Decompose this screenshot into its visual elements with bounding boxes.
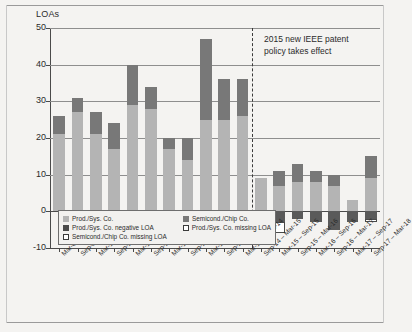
bar-segment-prod (163, 149, 174, 211)
bar-segment-semi (273, 171, 284, 186)
bar-segment-prod (108, 149, 119, 211)
frame-border-bottom (6, 322, 384, 323)
frame-border-left (6, 5, 7, 323)
legend-swatch-prod-icon (63, 216, 69, 222)
bar-segment-prod (292, 182, 303, 211)
legend-label-prod-negative: Prod./Sys. Co. negative LOA (72, 223, 154, 232)
legend-swatch-semi-missing-icon (63, 234, 69, 240)
bar-segment-prod (127, 105, 138, 211)
chart-legend: Prod./Sys. Co. Semicond./Chip Co. Prod./… (58, 210, 276, 245)
legend-label-semi: Semicond./Chip Co. (192, 214, 249, 223)
y-tick-label: 40 (20, 59, 46, 69)
y-tick-label: 10 (20, 169, 46, 179)
bar-segment-semi (108, 123, 119, 149)
bar-segment-prod (53, 134, 64, 211)
bar-segment-prod (182, 160, 193, 211)
bar-segment-semi (163, 138, 174, 149)
legend-row: Prod./Sys. Co. negative LOA Prod./Sys. C… (63, 223, 271, 232)
legend-swatch-prod-negative-icon (63, 225, 69, 231)
y-tick-mark (46, 175, 50, 176)
bar-segment-prod (347, 200, 358, 211)
legend-row: Semicond./Chip Co. missing LOA (63, 232, 271, 241)
y-tick-label: 30 (20, 95, 46, 105)
bar-segment-semi (72, 98, 83, 113)
legend-item-semi: Semicond./Chip Co. (183, 214, 249, 223)
legend-label-prod: Prod./Sys. Co. (72, 214, 113, 223)
bar-segment-prod (365, 178, 376, 211)
legend-item-prod-missing: Prod./Sys. Co. missing LOA (183, 223, 271, 232)
bar-segment-prod (310, 182, 321, 211)
legend-item-semi-missing: Semicond./Chip Co. missing LOA (63, 232, 183, 241)
bar-segment-semi (292, 164, 303, 182)
legend-swatch-prod-missing-icon (183, 225, 189, 231)
legend-item-prod-negative: Prod./Sys. Co. negative LOA (63, 223, 183, 232)
bar-segment-prod (145, 109, 156, 212)
y-tick-label: 0 (20, 205, 46, 215)
legend-label-semi-missing: Semicond./Chip Co. missing LOA (72, 232, 167, 241)
bar-segment-semi (182, 138, 193, 160)
x-axis-labels: Mar-09 – Sep-09Sep-09 – Mar-10Mar-10 – S… (50, 0, 390, 90)
bar-segment-semi (328, 175, 339, 186)
y-tick-mark (46, 211, 50, 212)
bar-segment-semi (365, 156, 376, 178)
legend-label-prod-missing: Prod./Sys. Co. missing LOA (192, 223, 271, 232)
legend-row: Prod./Sys. Co. Semicond./Chip Co. (63, 214, 271, 223)
bar-segment-semi (90, 112, 101, 134)
bar-segment-prod (273, 186, 284, 212)
bar-segment-prod (255, 178, 266, 211)
y-tick-label: 20 (20, 132, 46, 142)
bar-segment-semi (53, 116, 64, 134)
legend-item-prod: Prod./Sys. Co. (63, 214, 183, 223)
y-tick-mark (46, 138, 50, 139)
bar-segment-semi (310, 171, 321, 182)
y-tick-mark (46, 248, 50, 249)
bar-segment-prod (90, 134, 101, 211)
y-tick-mark (46, 101, 50, 102)
bar-segment-prod (200, 120, 211, 212)
y-tick-label: -10 (20, 242, 46, 252)
bar-segment-prod (237, 116, 248, 211)
bar-segment-prod (72, 112, 83, 211)
y-tick-label: 50 (20, 22, 46, 32)
bar-segment-prod (328, 186, 339, 212)
legend-swatch-semi-icon (183, 216, 189, 222)
bar-segment-prod (218, 120, 229, 212)
